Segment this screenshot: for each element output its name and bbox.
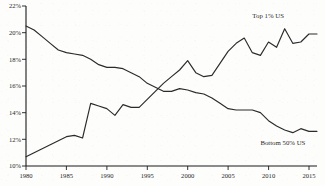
x-axis: 1980 1985 1990 1995 2000 2005 2010 2015 [19, 166, 317, 179]
y-tick-label: 18% [9, 56, 22, 63]
y-axis-ticks [22, 6, 26, 166]
x-tick-label: 2015 [302, 172, 316, 179]
x-tick-label: 2000 [181, 172, 195, 179]
series-label-top-1-percent: Top 1% US [252, 12, 284, 19]
chart-figure: 10% 12% 14% 16% 18% 20% 22% [0, 0, 325, 186]
x-tick-label: 2005 [222, 172, 236, 179]
x-axis-tick-labels: 1980 1985 1990 1995 2000 2005 2010 2015 [19, 172, 316, 179]
y-tick-label: 10% [9, 162, 22, 169]
y-tick-label: 12% [9, 136, 22, 143]
x-tick-label: 1980 [19, 172, 33, 179]
series-line-bottom-50-percent [26, 26, 317, 133]
x-tick-label: 1995 [141, 172, 155, 179]
y-axis-tick-labels: 10% 12% 14% 16% 18% 20% 22% [9, 2, 22, 169]
x-tick-label: 2010 [262, 172, 276, 179]
line-chart-plot: 10% 12% 14% 16% 18% 20% 22% [0, 0, 325, 186]
y-tick-label: 16% [9, 82, 22, 89]
series-label-bottom-50-percent: Bottom 50% US [260, 139, 305, 146]
series-line-top-1-percent [26, 29, 317, 157]
y-tick-label: 20% [9, 29, 22, 36]
y-tick-label: 14% [9, 109, 22, 116]
x-tick-label: 1985 [60, 172, 74, 179]
y-tick-label: 22% [9, 2, 22, 9]
x-axis-ticks [26, 166, 309, 170]
y-axis: 10% 12% 14% 16% 18% 20% 22% [9, 2, 26, 169]
x-tick-label: 1990 [100, 172, 114, 179]
